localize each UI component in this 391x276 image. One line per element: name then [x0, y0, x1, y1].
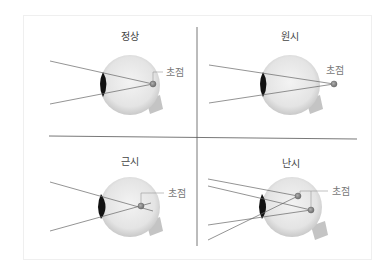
eyeball: [100, 177, 160, 237]
focus-point: [308, 207, 314, 213]
panel-hyperopia: 원시 초점: [209, 31, 344, 115]
eyeball: [262, 177, 322, 237]
panel-title-normal: 정상: [121, 31, 139, 42]
focus-label: 초점: [332, 186, 350, 197]
focus-label: 초점: [166, 67, 184, 78]
focus-label: 초점: [326, 65, 344, 76]
eye-refraction-diagram: 정상 초점 원시 초점 근시 초점 난시: [0, 0, 391, 276]
horizontal-divider: [49, 136, 357, 139]
focus-point: [138, 203, 144, 209]
focus-point: [295, 193, 301, 199]
panel-astigmatism: 난시 초점: [208, 158, 350, 240]
panel-myopia: 근시 초점: [50, 156, 186, 237]
panel-title-hyperopia: 원시: [281, 31, 299, 42]
panel-normal: 정상 초점: [50, 31, 184, 115]
panel-title-astigmatism: 난시: [282, 158, 300, 169]
focus-point: [150, 81, 156, 87]
panel-title-myopia: 근시: [121, 156, 139, 167]
focus-point: [331, 81, 337, 87]
focus-label: 초점: [168, 188, 186, 199]
eyeball: [260, 55, 320, 115]
